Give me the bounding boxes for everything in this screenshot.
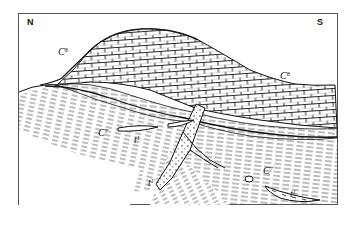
label-c7-right: C7	[263, 166, 273, 176]
label-sup: 1'	[151, 178, 155, 184]
label-base: C	[263, 165, 270, 176]
label-t1-right: t1	[290, 189, 296, 199]
label-t1-dike: t1'	[148, 178, 155, 188]
label-base: C	[280, 70, 287, 81]
label-north: N	[27, 17, 34, 27]
label-sup: 1	[137, 135, 140, 141]
label-base: C	[98, 127, 105, 138]
label-c7-left: C7	[98, 128, 108, 138]
label-sup: 7	[105, 128, 108, 134]
label-sup: 8	[287, 71, 290, 77]
label-south: S	[317, 17, 323, 27]
cross-section-drawing	[0, 0, 350, 228]
label-sup: 7	[270, 166, 273, 172]
label-sup: 8	[65, 47, 68, 53]
label-c8-right: C8	[280, 71, 290, 81]
label-c8-left: C8	[58, 47, 68, 57]
label-t1-left: t1	[134, 135, 140, 145]
nodule	[245, 176, 253, 182]
label-sup: 1	[293, 189, 296, 195]
label-base: C	[58, 46, 65, 57]
